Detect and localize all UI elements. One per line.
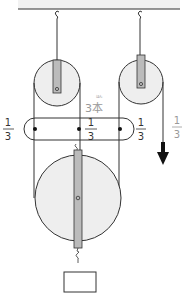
fraction-numerator: 1 bbox=[174, 115, 180, 126]
fraction-numerator: 1 bbox=[88, 117, 94, 128]
weight-block bbox=[64, 272, 96, 292]
right-fixed-pulley bbox=[119, 11, 163, 104]
pull-arrow-icon bbox=[157, 142, 169, 165]
pulley-diagram: ほん 3本 1 3 1 3 1 3 1 3 bbox=[0, 0, 187, 298]
rope-count-label: ほん 3本 bbox=[85, 94, 103, 115]
ceiling bbox=[18, 0, 180, 9]
rope-count-ruby: ほん bbox=[96, 94, 103, 99]
left-fixed-pulley bbox=[34, 11, 80, 106]
fraction-right: 1 3 bbox=[136, 117, 146, 142]
weight-hook-icon bbox=[76, 248, 79, 263]
fraction-left: 1 3 bbox=[3, 117, 14, 142]
rope-dot-middle bbox=[77, 127, 81, 131]
rope-count-bar bbox=[24, 118, 134, 140]
fraction-numerator: 1 bbox=[138, 117, 144, 128]
fraction-middle: 1 3 bbox=[85, 117, 97, 142]
fraction-denominator: 3 bbox=[5, 131, 11, 142]
right-hook-icon bbox=[138, 11, 142, 19]
fraction-denominator: 3 bbox=[138, 131, 144, 142]
left-hook-icon bbox=[55, 11, 59, 19]
fraction-pull: 1 3 bbox=[172, 115, 182, 140]
fraction-numerator: 1 bbox=[5, 117, 11, 128]
rope-dot-right bbox=[118, 127, 122, 131]
rope-dot-left bbox=[33, 127, 37, 131]
movable-pulley bbox=[35, 144, 121, 263]
fraction-denominator: 3 bbox=[88, 131, 94, 142]
rope-count-text: 3本 bbox=[85, 101, 103, 115]
fraction-denominator: 3 bbox=[174, 129, 180, 140]
